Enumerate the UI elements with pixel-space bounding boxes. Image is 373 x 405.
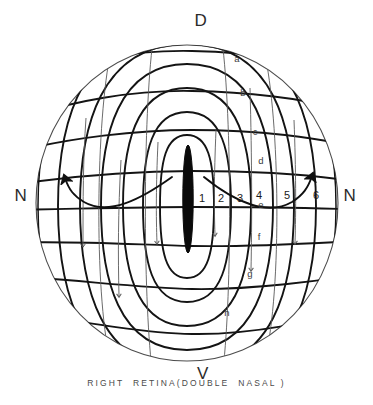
flow-arrow-2 (118, 160, 121, 296)
parallel-label-d: d (258, 155, 263, 166)
retina-projection-svg: D V N N 1 2 3 4 5 6 a b c d e f g h (0, 0, 373, 405)
parallel-label-a: a (234, 53, 240, 64)
meridian-label-2: 2 (218, 192, 224, 204)
meridian-label-6: 6 (313, 189, 319, 201)
cardinal-label-dorsal: D (195, 11, 208, 30)
meridian-label-3: 3 (237, 192, 243, 204)
meridian-label-5: 5 (284, 189, 290, 201)
parallel-label-f: f (258, 231, 261, 242)
flow-arrow-3 (156, 142, 158, 243)
parallel-label-g: g (247, 268, 252, 279)
parallel-label-b: b (240, 87, 245, 98)
parallel-label-c: c (253, 126, 258, 137)
figure-caption: RIGHT RETINA(DOUBLE NASAL ) (0, 378, 373, 388)
cardinal-label-nasal-right: N (344, 186, 357, 205)
meridian-label-1: 1 (199, 192, 205, 204)
retina-diagram: D V N N 1 2 3 4 5 6 a b c d e f g h RIGH… (0, 0, 373, 405)
flow-arrow-4 (214, 130, 216, 235)
optic-disc (183, 145, 193, 253)
parallel-label-h: h (224, 307, 229, 318)
parallel-label-e: e (258, 199, 263, 210)
cardinal-label-nasal-left: N (15, 186, 28, 205)
